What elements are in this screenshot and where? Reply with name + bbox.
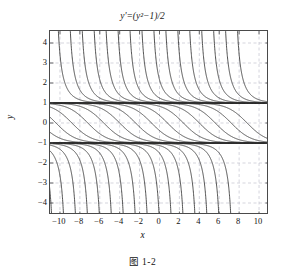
y-axis-tick-labels: −4−3−2−101234 <box>22 30 47 214</box>
y-tick-label: −4 <box>25 198 47 207</box>
inner-tick-marks <box>50 31 268 214</box>
y-tick-label: 4 <box>25 38 47 47</box>
equilibrium-lines <box>50 103 268 143</box>
solution-curves <box>50 31 268 214</box>
plot-title: y'=(y²−1)/2 <box>0 11 285 21</box>
y-tick-label: 0 <box>25 118 47 127</box>
y-tick-label: 3 <box>25 58 47 67</box>
y-tick-label: 1 <box>25 98 47 107</box>
y-tick-label: −3 <box>25 178 47 187</box>
y-tick-label: 2 <box>25 78 47 87</box>
x-axis-tick-labels: −10−8−6−4−20246810 <box>49 217 268 229</box>
figure-container: y'=(y²−1)/2 −4−3−2−101234 −10−8−6−4−2024… <box>0 0 285 279</box>
x-tick-label: 10 <box>245 217 271 226</box>
y-axis-label: y <box>5 115 15 119</box>
gridlines <box>50 31 268 214</box>
y-tick-label: −2 <box>25 158 47 167</box>
solution-curves-svg <box>50 31 268 214</box>
figure-caption: 图 1-2 <box>0 254 285 268</box>
x-axis-label: x <box>0 230 285 240</box>
plot-area <box>49 30 268 214</box>
y-tick-label: −1 <box>25 138 47 147</box>
